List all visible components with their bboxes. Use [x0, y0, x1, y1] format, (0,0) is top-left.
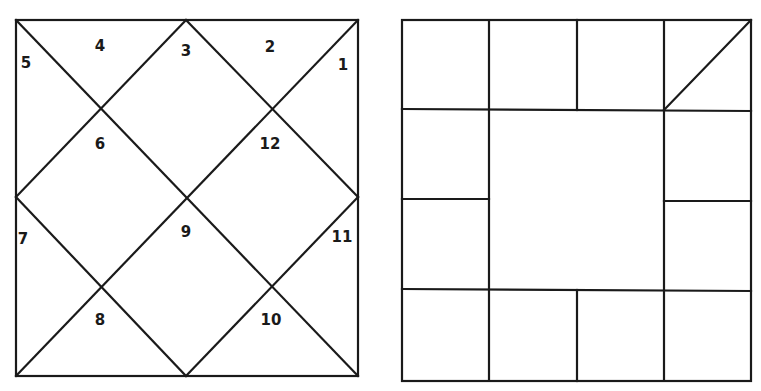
- house-label-8: 8: [95, 313, 105, 328]
- house-label-10: 10: [261, 313, 282, 328]
- house-label-7: 7: [18, 232, 28, 247]
- house-label-12: 12: [260, 137, 281, 152]
- house-label-2: 2: [265, 40, 275, 55]
- north-indian-chart: [0, 0, 761, 391]
- house-label-6: 6: [95, 137, 105, 152]
- house-label-4: 4: [95, 39, 105, 54]
- south-marker-diagonal: [664, 20, 751, 110]
- south-indian-chart: [402, 20, 751, 381]
- house-label-3: 3: [181, 44, 191, 59]
- house-label-9: 9: [181, 225, 191, 240]
- house-label-11: 11: [332, 230, 353, 245]
- house-label-1: 1: [338, 58, 348, 73]
- house-label-5: 5: [21, 56, 31, 71]
- north-indian-chart-lines: [16, 20, 358, 376]
